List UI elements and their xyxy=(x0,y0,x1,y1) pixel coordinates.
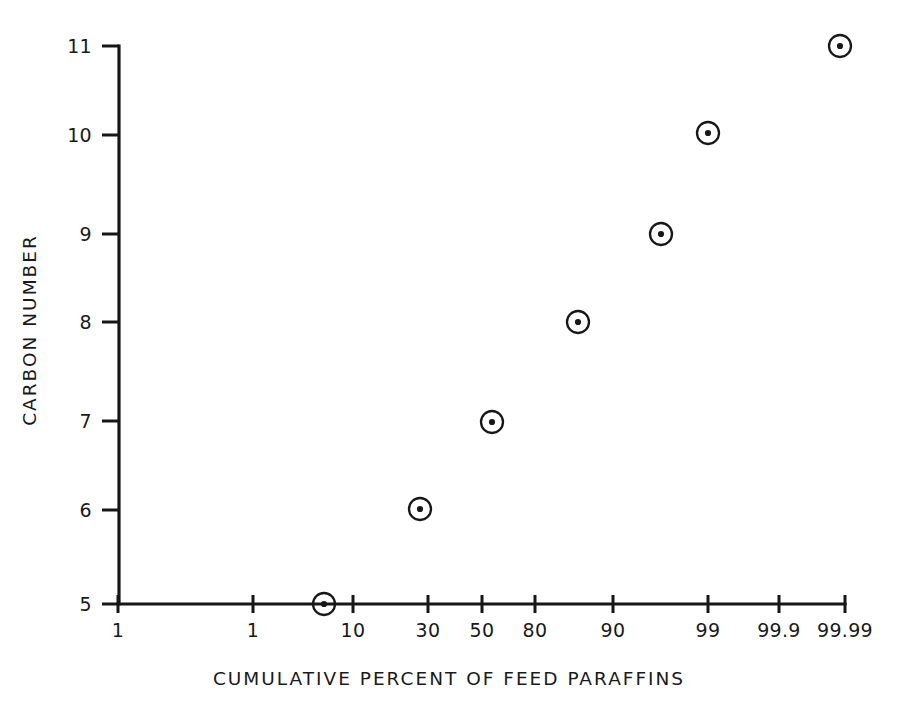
y-axis-tick-label: 6 xyxy=(80,499,92,521)
marker-center-dot xyxy=(705,130,711,136)
y-axis-tick-label: 11 xyxy=(67,35,92,57)
y-axis-tick-label: 8 xyxy=(80,311,92,333)
x-axis-tick-label: 1 xyxy=(247,619,259,641)
data-point-c10 xyxy=(697,122,719,144)
x-axis-tick-label: 90 xyxy=(601,619,626,641)
marker-center-dot xyxy=(489,419,495,425)
y-axis-ticks xyxy=(102,46,119,604)
axes-group xyxy=(118,46,845,604)
y-axis-title: CARBON NUMBER xyxy=(19,234,40,426)
probability-plot-svg: 567891011 1110305080909999.999.99 CUMULA… xyxy=(0,0,897,719)
x-axis-tick-label: 10 xyxy=(341,619,366,641)
data-point-c8 xyxy=(567,311,589,333)
x-axis-tick-label: 99.99 xyxy=(817,619,873,641)
x-axis-tick-label: 1 xyxy=(112,619,124,641)
x-axis-tick-label: 50 xyxy=(470,619,495,641)
data-point-c11 xyxy=(829,35,851,57)
x-axis-title: CUMULATIVE PERCENT OF FEED PARAFFINS xyxy=(213,668,685,689)
x-axis-tick-label: 99 xyxy=(696,619,721,641)
y-axis-tick-label: 7 xyxy=(80,410,92,432)
data-point-c9 xyxy=(650,223,672,245)
marker-center-dot xyxy=(321,601,327,607)
data-point-c7 xyxy=(481,411,503,433)
marker-center-dot xyxy=(837,43,843,49)
marker-center-dot xyxy=(658,231,664,237)
y-axis-tick-label: 5 xyxy=(80,593,92,615)
marker-center-dot xyxy=(575,319,581,325)
data-point-c6 xyxy=(409,498,431,520)
y-axis-tick-labels: 567891011 xyxy=(67,35,92,615)
data-point-markers xyxy=(313,35,851,615)
x-axis-tick-label: 99.9 xyxy=(757,619,801,641)
x-axis-tick-labels: 1110305080909999.999.99 xyxy=(112,619,873,641)
y-axis-tick-label: 10 xyxy=(67,124,92,146)
x-axis-tick-label: 80 xyxy=(523,619,548,641)
marker-center-dot xyxy=(417,506,423,512)
y-axis-tick-label: 9 xyxy=(80,223,92,245)
chart-figure: 567891011 1110305080909999.999.99 CUMULA… xyxy=(0,0,897,719)
x-axis-tick-label: 30 xyxy=(416,619,441,641)
